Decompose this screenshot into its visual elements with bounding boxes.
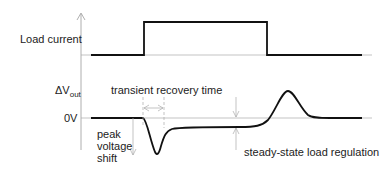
- zero-volt-label: 0V: [64, 112, 77, 124]
- transient-recovery-label: transient recovery time: [111, 84, 222, 96]
- peak-label-line3: shift: [97, 152, 117, 164]
- delta-v-subscript: out: [70, 90, 81, 99]
- steady-state-label: steady-state load regulation: [244, 146, 379, 158]
- peak-label-line2: voltage: [97, 140, 132, 152]
- load-current-label: Load current: [20, 33, 82, 45]
- peak-label-line1: peak: [97, 128, 121, 140]
- load-current-waveform: [91, 22, 362, 55]
- delta-v-text: ΔV: [55, 84, 70, 96]
- delta-v-out-label: ΔVout: [55, 84, 81, 101]
